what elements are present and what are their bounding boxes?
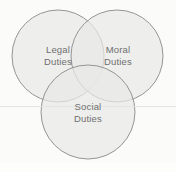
venn-circle-social <box>41 65 135 159</box>
venn-diagram-figure: Legal Duties Moral Duties Social Duties <box>0 0 176 172</box>
venn-diagram-canvas <box>0 0 176 172</box>
